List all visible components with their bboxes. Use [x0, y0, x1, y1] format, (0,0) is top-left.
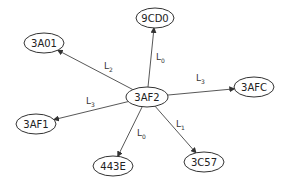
- edge-label-subscript: 3: [201, 78, 205, 85]
- edge-label-3AFC: L3: [196, 73, 205, 85]
- node-3AF1: 3AF1: [16, 114, 56, 134]
- edge-3AF2-to-3A01: [58, 50, 133, 89]
- edge-label-3A01: L2: [104, 61, 113, 73]
- edge-3AF2-to-3C57: [155, 106, 196, 153]
- node-443E: 443E: [93, 156, 133, 176]
- edge-label-subscript: 3: [91, 101, 95, 108]
- edge-label-subscript: 0: [161, 57, 165, 64]
- edge-label-subscript: 1: [181, 124, 185, 131]
- edge-label-subscript: 0: [142, 133, 146, 140]
- node-label: 3A01: [31, 38, 57, 49]
- node-3C57: 3C57: [184, 152, 224, 172]
- network-graph: L0L2L3L3L0L1 3AF29CD03A013AFC3AF1443E3C5…: [0, 0, 290, 185]
- node-label: 3AFC: [241, 82, 267, 93]
- node-label: 3C57: [191, 157, 217, 168]
- node-3AFC: 3AFC: [234, 77, 274, 97]
- node-label: 3AF2: [134, 92, 159, 103]
- edge-label-subscript: 2: [109, 66, 113, 73]
- edge-label-3C57: L1: [176, 119, 185, 131]
- edge-3AF2-to-3AFC: [168, 89, 235, 95]
- node-3A01: 3A01: [24, 33, 64, 53]
- node-3AF2: 3AF2: [126, 87, 168, 107]
- node-label: 3AF1: [23, 119, 48, 130]
- node-label: 9CD0: [141, 13, 168, 24]
- edge-label-3AF1: L3: [86, 96, 95, 108]
- edge-label-443E: L0: [137, 128, 146, 140]
- node-label: 443E: [100, 161, 125, 172]
- node-9CD0: 9CD0: [136, 8, 174, 28]
- edge-label-9CD0: L0: [156, 52, 165, 64]
- edge-3AF2-to-9CD0: [148, 28, 154, 87]
